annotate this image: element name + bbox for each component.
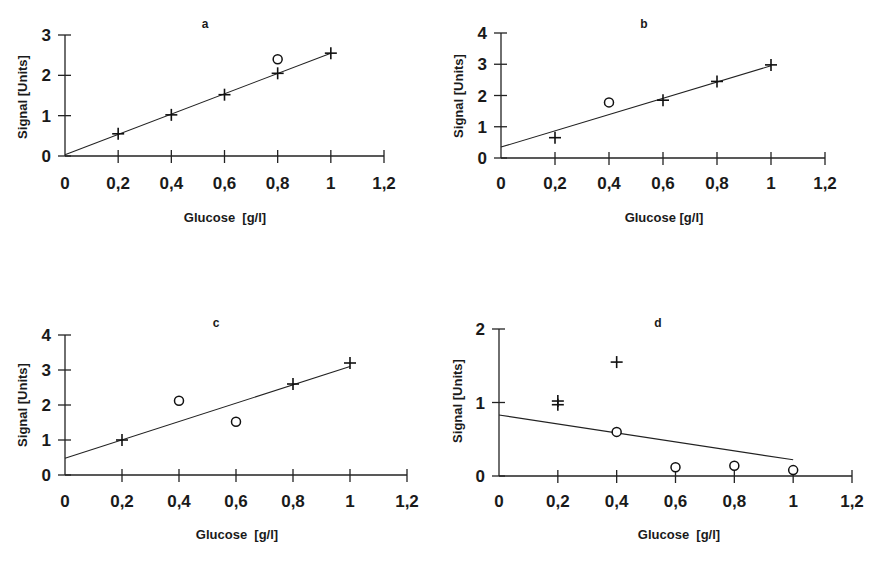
chart-title: c — [213, 316, 220, 330]
chart-panel-a: a Glucose [g/l] Signal [Units] 00,20,40,… — [15, 17, 396, 225]
x-tick-label: 1 — [326, 174, 335, 193]
y-tick-label: 3 — [42, 361, 51, 380]
y-tick-label: 2 — [42, 396, 51, 415]
x-tick-label: 1,2 — [813, 174, 837, 193]
x-tick-label: 0,4 — [597, 174, 621, 193]
circle-marker-icon — [232, 417, 241, 426]
x-tick-label: 0,8 — [266, 174, 290, 193]
y-tick-label: 2 — [478, 87, 487, 106]
circle-marker-icon — [175, 396, 184, 405]
chart-title: b — [640, 17, 647, 31]
chart-panel-b: b Glucose [g/l] Signal [Units] 00,20,40,… — [451, 17, 837, 225]
plus-marker-icon — [711, 75, 723, 87]
x-tick-label: 1 — [345, 492, 354, 511]
x-tick-label: 0 — [60, 174, 69, 193]
x-tick-label: 0 — [496, 174, 505, 193]
x-tick-label: 0,8 — [705, 174, 729, 193]
x-axis-label: Glucose [g/l] — [625, 210, 704, 225]
x-tick-label: 0,6 — [224, 492, 248, 511]
x-tick-label: 0,2 — [546, 492, 570, 511]
y-tick-label: 2 — [476, 320, 485, 339]
x-tick-label: 0,2 — [543, 174, 567, 193]
x-axis-label: Glucose [g/l] — [196, 527, 278, 542]
circle-marker-icon — [671, 463, 680, 472]
x-tick-label: 0,8 — [723, 492, 747, 511]
x-tick-label: 1,2 — [372, 174, 396, 193]
x-tick-label: 0,6 — [664, 492, 688, 511]
y-tick-label: 0 — [476, 467, 485, 486]
x-tick-label: 1,2 — [840, 492, 864, 511]
circle-marker-icon — [273, 55, 282, 64]
plus-marker-icon — [116, 434, 128, 446]
x-axis-label: Glucose [g/l] — [638, 527, 720, 542]
x-tick-label: 1,2 — [395, 492, 419, 511]
chart-panel-c: c Glucose [g/l] Signal [Units] 00,20,40,… — [15, 316, 419, 542]
plus-marker-icon — [344, 357, 356, 369]
plus-marker-icon — [611, 356, 623, 368]
plus-marker-icon — [165, 109, 177, 121]
x-tick-label: 0,2 — [110, 492, 134, 511]
plus-marker-icon — [219, 89, 231, 101]
y-tick-label: 1 — [476, 394, 485, 413]
y-axis-label: Signal [Units] — [450, 359, 465, 443]
plus-marker-icon — [765, 59, 777, 71]
y-tick-label: 2 — [42, 66, 51, 85]
regression-line — [501, 66, 771, 147]
x-tick-label: 0 — [60, 492, 69, 511]
x-tick-label: 0,4 — [160, 174, 184, 193]
circle-marker-icon — [605, 98, 614, 107]
y-tick-label: 1 — [478, 118, 487, 137]
circle-marker-icon — [789, 466, 798, 475]
plus-marker-icon — [325, 47, 337, 59]
x-tick-label: 0,8 — [281, 492, 305, 511]
y-axis-label: Signal [Units] — [15, 55, 30, 139]
x-tick-label: 0,6 — [213, 174, 237, 193]
plus-marker-icon — [272, 67, 284, 79]
y-tick-label: 3 — [42, 26, 51, 45]
regression-line — [65, 367, 350, 459]
x-tick-label: 1 — [788, 492, 797, 511]
y-tick-label: 1 — [42, 431, 51, 450]
y-tick-label: 4 — [478, 24, 488, 43]
y-axis-label: Signal [Units] — [15, 363, 30, 447]
x-tick-label: 0,6 — [651, 174, 675, 193]
regression-line — [65, 53, 331, 155]
x-tick-label: 0,4 — [605, 492, 629, 511]
chart-canvas: a Glucose [g/l] Signal [Units] 00,20,40,… — [0, 0, 874, 561]
plus-marker-icon — [112, 128, 124, 140]
y-axis-label: Signal [Units] — [451, 54, 466, 138]
circle-marker-icon — [730, 461, 739, 470]
x-tick-label: 0 — [494, 492, 503, 511]
x-axis-label: Glucose [g/l] — [184, 210, 266, 225]
x-tick-label: 0,4 — [167, 492, 191, 511]
x-tick-label: 1 — [766, 174, 775, 193]
y-tick-label: 3 — [478, 55, 487, 74]
y-tick-label: 1 — [42, 107, 51, 126]
plus-marker-icon — [657, 94, 669, 106]
chart-title: a — [202, 17, 209, 31]
chart-panel-d: d Glucose [g/l] Signal [Units] 00,20,40,… — [450, 316, 864, 542]
plus-marker-icon — [549, 132, 561, 144]
y-tick-label: 0 — [478, 149, 487, 168]
y-tick-label: 0 — [42, 466, 51, 485]
y-tick-label: 4 — [42, 326, 52, 345]
x-tick-label: 0,2 — [106, 174, 130, 193]
chart-title: d — [654, 316, 661, 330]
y-tick-label: 0 — [42, 147, 51, 166]
regression-line — [499, 415, 793, 460]
plus-marker-icon — [287, 378, 299, 390]
circle-marker-icon — [612, 427, 621, 436]
